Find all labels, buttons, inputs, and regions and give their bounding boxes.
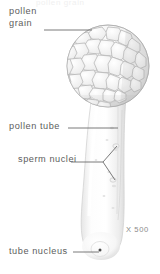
- label-pollen-tube: pollen tube: [9, 121, 60, 133]
- tube-tip: [82, 232, 120, 260]
- tube-nucleus-dot: [99, 249, 102, 252]
- label-pollen-grain-line2: grain: [9, 18, 37, 30]
- label-sperm-nuclei: sperm nuclei: [18, 154, 77, 166]
- figure-canvas: pollen grain: [0, 0, 160, 274]
- label-tube-nucleus: tube nucleus: [9, 246, 68, 258]
- label-pollen-grain: pollen grain: [9, 6, 37, 29]
- sperm-nucleus-2: [110, 178, 116, 182]
- pollen-grain-body: [57, 25, 152, 113]
- pollen-tube-body: [81, 96, 126, 260]
- label-pollen-grain-line1: pollen: [9, 6, 37, 18]
- magnification-note: X 500: [126, 225, 149, 234]
